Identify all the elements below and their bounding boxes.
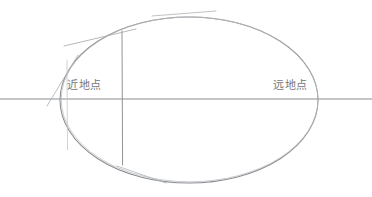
vertical-chord-line [122,31,123,165]
tangent-line-upper-left [64,29,136,46]
perigee-label: 近地点 [67,79,102,92]
tangent-line-top [152,11,216,16]
orbit-diagram-svg [0,0,372,197]
apogee-label: 远地点 [273,79,308,92]
orbit-diagram-canvas: 近地点 远地点 [0,0,372,197]
tangent-line-bottom-left [117,166,166,183]
